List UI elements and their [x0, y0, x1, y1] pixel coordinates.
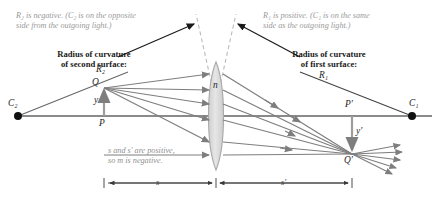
diverging-rays-after-image [352, 145, 402, 174]
note-r1-line2: side as the outgoing light.) [263, 21, 370, 31]
callout-second-surface: Radius of curvature of second surface: [36, 49, 152, 70]
label-p-prime: P′ [345, 99, 353, 110]
callout-first-surface: Radius of curvature of first surface: [271, 49, 387, 70]
radius-line-first-surface [300, 72, 412, 116]
label-image-distance: s′ [281, 177, 286, 187]
note-sign-line2: so m is negative. [108, 156, 175, 166]
callout-first-surface-line2: of first surface: [271, 59, 387, 69]
radius-line-second-surface [18, 72, 128, 116]
center-of-curvature-2-dot [14, 112, 22, 120]
note-r1-line1: R₁ is positive. (C₁ is on the same [263, 11, 370, 21]
callout-second-surface-line1: Radius of curvature [36, 49, 152, 59]
label-r1: R₁ [319, 70, 328, 81]
label-q: Q [92, 77, 99, 88]
label-y: y [94, 95, 98, 106]
note-r1-positive: R₁ is positive. (C₁ is on the same side … [263, 11, 370, 31]
label-object-distance: s [156, 177, 159, 187]
note-r2-line2: side from the outgoing light.) [16, 21, 136, 31]
center-of-curvature-1-dot [408, 112, 416, 120]
label-y-prime: y′ [356, 126, 362, 137]
lens [209, 62, 224, 170]
label-c1: C₁ [409, 98, 419, 109]
label-r2: R₂ [96, 64, 105, 75]
label-c2: C₂ [8, 98, 18, 109]
incident-rays [104, 74, 209, 142]
label-refractive-index: n [213, 80, 218, 91]
note-sign-line1: s and s′ are positive, [108, 146, 175, 156]
label-q-prime: Q′ [344, 155, 353, 166]
dimension-object-distance [104, 178, 216, 188]
figure-canvas: R₂ is negative. (C₂ is on the opposite s… [0, 0, 432, 206]
refracted-rays [223, 74, 352, 155]
note-r2-line1: R₂ is negative. (C₂ is on the opposite [16, 11, 136, 21]
note-sign-convention: s and s′ are positive, so m is negative. [108, 146, 175, 166]
callout-second-surface-line2: of second surface: [36, 59, 152, 69]
label-p: P [99, 118, 105, 129]
note-r2-negative: R₂ is negative. (C₂ is on the opposite s… [16, 11, 136, 31]
callout-first-surface-line1: Radius of curvature [271, 49, 387, 59]
